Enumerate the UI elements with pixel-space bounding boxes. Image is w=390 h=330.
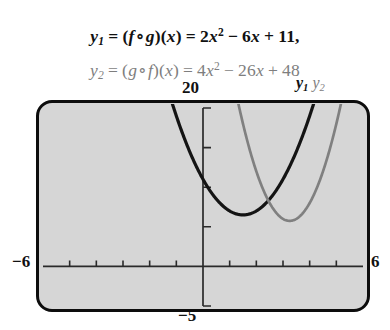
legend-label-y2: y2 (312, 74, 324, 91)
y2-b-coefficient: 26 (238, 60, 256, 80)
legend-y2-sub: 2 (320, 82, 325, 93)
y1-coefficient: 2 (200, 26, 209, 46)
curve-y₂ (236, 100, 343, 221)
y2-variable: y (90, 60, 98, 80)
legend-label-y1: y1 (296, 74, 308, 91)
y2-b-x: x (256, 60, 264, 80)
window-label-xmax: 6 (371, 252, 380, 272)
y2-arg-x: x (165, 60, 173, 80)
composition-ring-icon: ∘ (135, 26, 146, 46)
legend-y2-var: y (312, 74, 319, 91)
y1-b-x: x (251, 26, 260, 46)
legend-y1-sub: 1 (303, 82, 308, 93)
y1-arg-x: x (167, 26, 176, 46)
y2-x-squared-base: x (206, 60, 214, 80)
y2-minus-sign: − (224, 60, 234, 80)
curves-group (169, 100, 343, 221)
y1-b-coefficient: 6 (242, 26, 251, 46)
composition-ring-icon: ∘ (137, 60, 148, 80)
window-label-xmin: −6 (12, 252, 30, 272)
y2-equals-1: = (108, 60, 118, 80)
y2-exponent: 2 (214, 60, 220, 72)
y1-subscript: 1 (98, 35, 104, 47)
y2-plus-sign: + (268, 60, 278, 80)
graphing-calculator-screen (36, 100, 370, 312)
plot-area (36, 100, 370, 312)
curve-legend: y1y2 (296, 74, 325, 93)
y2-func-g: g (128, 60, 137, 80)
y2-close-paren: ) (173, 60, 179, 80)
y1-close-paren: ) (176, 26, 182, 46)
y1-constant: 11, (278, 26, 300, 46)
y1-func-g: g (146, 26, 155, 46)
y1-equals-1: = (108, 26, 118, 46)
y1-equals-2: = (186, 26, 196, 46)
y1-x-squared-base: x (209, 26, 218, 46)
y2-subscript: 2 (98, 69, 104, 81)
axes-group (43, 108, 363, 306)
y2-close-open-paren: )( (153, 60, 165, 80)
curve-y₁ (169, 100, 317, 215)
y1-close-open-paren: )( (155, 26, 167, 46)
y1-plus-sign: + (264, 26, 274, 46)
equation-y1: y1=(f∘g)(x)=2x2−6x+11, (0, 20, 390, 54)
y1-func-f: f (128, 26, 134, 46)
y1-exponent: 2 (218, 26, 224, 38)
y1-minus-sign: − (228, 26, 238, 46)
window-label-ymax: 20 (182, 78, 199, 98)
